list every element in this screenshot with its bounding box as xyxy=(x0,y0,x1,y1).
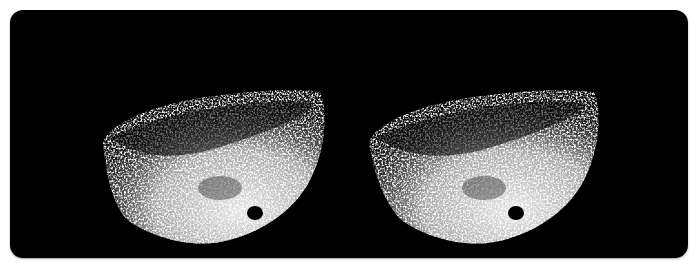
asteroid-image-left xyxy=(10,10,349,258)
asteroid-image-right xyxy=(349,10,688,258)
stereo-image-panel xyxy=(10,10,688,258)
